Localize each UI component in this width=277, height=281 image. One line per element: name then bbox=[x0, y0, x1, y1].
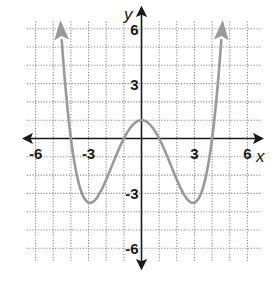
function-graph: -6-33663-3-6 x y bbox=[0, 0, 277, 281]
x-tick-label: 3 bbox=[190, 145, 198, 162]
x-tick-label: -6 bbox=[29, 145, 42, 162]
y-tick-label: -3 bbox=[125, 185, 138, 202]
x-tick-label: 6 bbox=[243, 145, 251, 162]
y-tick-label: 3 bbox=[130, 76, 138, 93]
x-axis-label: x bbox=[255, 147, 265, 166]
y-axis-label: y bbox=[123, 5, 134, 24]
curve-arrow-icon bbox=[54, 20, 69, 40]
curve-arrow-icon bbox=[214, 20, 229, 40]
y-tick-label: -6 bbox=[125, 240, 138, 257]
x-tick-label: -3 bbox=[82, 145, 95, 162]
